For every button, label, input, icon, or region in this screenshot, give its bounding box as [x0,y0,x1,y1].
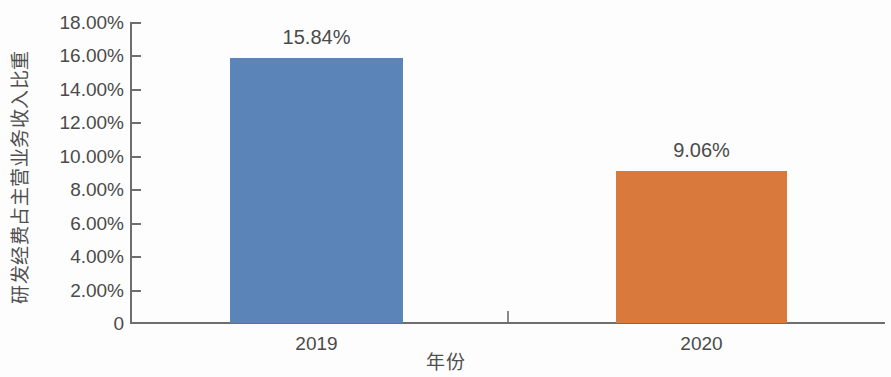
y-tick-label-10: 10.00% [28,147,124,166]
plot-area [132,0,885,377]
bar-value-label-2020: 9.06% [616,140,787,160]
bar-2019[interactable] [230,58,403,323]
bar-2020[interactable] [616,171,787,323]
y-axis-tick-labels: 18.00% 16.00% 14.00% 12.00% 10.00% 8.00%… [28,0,124,377]
y-tick-label-16: 16.00% [28,46,124,65]
y-tick-label-2: 2.00% [28,281,124,300]
y-tick-label-4: 4.00% [28,247,124,266]
y-tick-label-0: 0 [28,314,124,333]
y-tick-label-18: 18.00% [28,13,124,32]
x-axis-title: 年份 [0,352,891,374]
x-tick-label-2020: 2020 [616,334,787,353]
y-tick-label-6: 6.00% [28,214,124,233]
y-tick-label-12: 12.00% [28,113,124,132]
bar-chart: 研发经费占主营业务收入比重 18.00% 16.00% 14.00% 12.00… [0,0,891,377]
y-tick-label-8: 8.00% [28,180,124,199]
y-tick-label-14: 14.00% [28,80,124,99]
x-tick-label-2019: 2019 [230,334,403,353]
bar-value-label-2019: 15.84% [230,27,403,47]
